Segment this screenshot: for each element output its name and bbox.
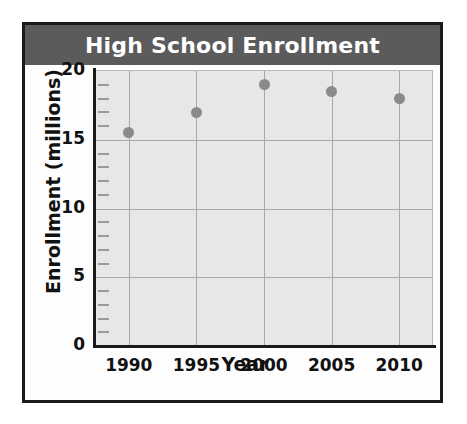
y-axis-line	[93, 68, 96, 348]
x-tick-label: 2005	[297, 355, 367, 375]
data-point	[326, 86, 337, 97]
x-tick-label: 1995	[161, 355, 231, 375]
y-axis-minor-tick	[98, 194, 109, 196]
y-axis-minor-tick	[98, 318, 109, 320]
x-tick-label: 2010	[364, 355, 434, 375]
data-point	[123, 127, 134, 138]
data-point	[191, 107, 202, 118]
gridline-vertical	[399, 71, 400, 346]
data-point	[394, 93, 405, 104]
y-axis-minor-tick	[98, 304, 109, 306]
y-tick-label: 15	[45, 128, 85, 148]
y-tick-label: 5	[45, 265, 85, 285]
plot-region: Enrollment (millions) Year 20151050 1990…	[25, 65, 440, 400]
x-tick-label: 2000	[229, 355, 299, 375]
y-axis-minor-tick	[98, 249, 109, 251]
y-axis-minor-tick	[98, 153, 109, 155]
plot-area	[95, 70, 433, 345]
y-axis-minor-tick	[98, 263, 109, 265]
y-axis-minor-tick	[98, 180, 109, 182]
y-axis-minor-tick	[98, 166, 109, 168]
chart-title-bar: High School Enrollment	[25, 25, 440, 65]
y-axis-minor-tick	[98, 111, 109, 113]
y-axis-minor-tick	[98, 84, 109, 86]
y-axis-minor-tick	[98, 221, 109, 223]
y-axis-minor-tick	[98, 235, 109, 237]
y-axis-minor-tick	[98, 125, 109, 127]
data-point	[259, 79, 270, 90]
gridline-vertical	[129, 71, 130, 346]
y-axis-minor-tick	[98, 290, 109, 292]
y-tick-label: 20	[45, 59, 85, 79]
gridline-vertical	[264, 71, 265, 346]
chart-title: High School Enrollment	[85, 33, 380, 58]
figure-card: High School Enrollment Enrollment (milli…	[22, 22, 443, 403]
x-axis-line	[93, 345, 436, 348]
x-tick-label: 1990	[94, 355, 164, 375]
y-axis-minor-tick	[98, 331, 109, 333]
y-axis-minor-tick	[98, 98, 109, 100]
gridline-vertical	[332, 71, 333, 346]
y-tick-label: 10	[45, 197, 85, 217]
y-tick-label: 0	[45, 334, 85, 354]
y-axis-title: Enrollment (millions)	[42, 94, 64, 294]
